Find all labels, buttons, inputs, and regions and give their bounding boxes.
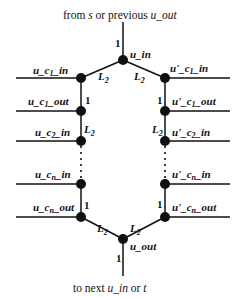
node-left-cn-out [76, 212, 86, 222]
bottom-caption: to next u_in or t [73, 282, 147, 294]
gadget-diagram: from s or previous u_out to next u_in or… [0, 0, 244, 297]
weight-L2-left-c2: L2 [83, 123, 95, 138]
label-left-c2-in: u_c2_in [35, 126, 70, 140]
label-right-cn-out: u'_cn_out [172, 201, 217, 215]
label-left-c1-in: u_c1_in [33, 64, 68, 78]
weight-L2-bottom-left: L2 [96, 222, 108, 237]
node-left-c2-in [76, 136, 86, 146]
weight-left-cn: 1 [84, 199, 90, 211]
weight-left-c1: 1 [85, 94, 91, 106]
node-u-out [118, 234, 128, 244]
weight-L2-right-c2: L2 [151, 123, 163, 138]
top-caption: from s or previous u_out [63, 9, 178, 22]
label-left-cn-out: u_cn_out [33, 201, 75, 215]
node-u-in [118, 55, 128, 65]
label-left-c1-out: u_c1_out [28, 95, 70, 109]
label-u-in: u_in [130, 48, 151, 60]
node-left-c1-in [76, 73, 86, 83]
weight-right-cn: 1 [157, 198, 163, 210]
weight-L2-top-right: L2 [133, 70, 145, 85]
label-right-c2-in: u'_c2_in [172, 126, 210, 140]
node-left-cn-in [76, 179, 86, 189]
weight-top: 1 [115, 37, 121, 49]
node-right-cn-in [160, 179, 170, 189]
label-right-c1-out: u'_c1_out [172, 95, 217, 109]
node-right-c1-out [160, 106, 170, 116]
weight-bottom: 1 [116, 252, 122, 264]
label-u-out: u_out [130, 240, 157, 252]
label-left-cn-in: u_cn_in [35, 168, 71, 182]
label-right-c1-in: u'_c1_in [170, 62, 208, 76]
node-left-c1-out [76, 106, 86, 116]
node-right-cn-out [160, 212, 170, 222]
weight-right-c1: 1 [157, 94, 163, 106]
node-right-c1-in [160, 73, 170, 83]
label-right-cn-in: u'_cn_in [172, 168, 211, 182]
weight-L2-top-left: L2 [97, 70, 109, 85]
